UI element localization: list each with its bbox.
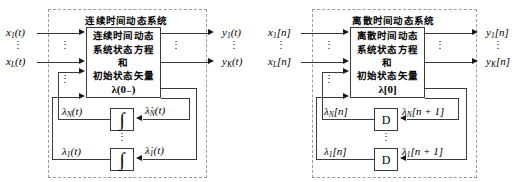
input-label-L: xL[n] [268, 56, 291, 70]
dot: ⋮ [321, 43, 337, 46]
state-wire-1-into-block [52, 97, 81, 98]
input-label-L: xL(t) [6, 56, 25, 70]
output-arrowhead-1 [472, 29, 478, 35]
dot: ⋮ [168, 43, 184, 46]
output-ellipsis-outer: ⋮ [226, 43, 242, 46]
integral-icon: ∫ [119, 150, 124, 169]
state-label-1-arg: (t) [71, 145, 81, 157]
output-wire-K [425, 62, 473, 63]
input-label-1-arg: (t) [15, 26, 25, 38]
state-derivative-label-N-arg: (t) [155, 104, 165, 116]
output-arrowhead-1 [208, 29, 214, 35]
dot: ⋮ [57, 43, 73, 46]
operator-ellipsis: ⋮ [114, 135, 130, 138]
input-arrowhead-1 [79, 29, 85, 35]
dot: ⋮ [10, 43, 26, 46]
discrete-panel-title: 离散时间动态系统 [312, 13, 475, 27]
input-arrowhead-1 [343, 29, 349, 35]
state-dot-wire-N-up [189, 98, 190, 120]
state-feedback-ellipsis: ⋮ [321, 77, 337, 80]
state-label-1: λ1(t) [62, 146, 81, 160]
output-arrowhead-K [472, 58, 478, 64]
state-wire-1-out [52, 159, 110, 160]
state-label-N: λN(t) [62, 106, 82, 120]
state-wire-N-into-block [58, 72, 81, 73]
initial-state-vector-label: λ(0₋) [111, 83, 135, 96]
dot: ⋮ [114, 135, 130, 138]
state-wire-1-up [316, 97, 317, 160]
dot: ⋮ [273, 43, 289, 46]
output-label-K: yK[n] [486, 56, 510, 70]
integrator-box-N: ∫ [110, 108, 134, 131]
delay-icon: D [382, 154, 391, 166]
state-next-label-N-arg: [n + 1] [412, 105, 444, 117]
input-ellipsis-inner: ⋮ [321, 43, 337, 46]
state-next-label-N: λN[n + 1] [402, 106, 444, 120]
dot: ⋮ [57, 77, 73, 80]
output-label-1-arg: [n] [495, 26, 509, 38]
state-wire-N-up [322, 72, 323, 120]
output-ellipsis-inner: ⋮ [168, 43, 184, 46]
output-label-K: yK(t) [222, 56, 242, 70]
system-block-line-4: 初始状态矢量 [357, 69, 418, 82]
output-label-1-arg: (t) [231, 26, 241, 38]
state-label-N-arg: (t) [72, 105, 82, 117]
operator-ellipsis: ⋮ [378, 135, 394, 138]
output-ellipsis-outer: ⋮ [490, 43, 506, 46]
dot: ⋮ [378, 135, 394, 138]
input-arrowhead-L [343, 58, 349, 64]
continuous-panel-title: 连续时间动态系统 [48, 13, 205, 27]
system-block-line-3: 和 [382, 56, 392, 69]
state-feedback-ellipsis: ⋮ [57, 77, 73, 80]
delay-box-N: D [374, 108, 398, 131]
state-next-label-1: λ1[n + 1] [402, 146, 443, 160]
output-wire-K [161, 62, 209, 63]
input-ellipsis-outer: ⋮ [10, 43, 26, 46]
state-derivative-label-1-arg: (t) [154, 144, 164, 156]
integral-icon: ∫ [119, 110, 124, 129]
dot: ⋮ [432, 43, 448, 46]
continuous-system-block: 连续时间动态 系统状态方程 和 初始状态矢量 λ(0₋) [86, 27, 161, 98]
state-derivative-label-N: λ̇N(t) [145, 105, 165, 119]
state-next-wire-N-from-block [425, 98, 459, 99]
integrator-box-1: ∫ [110, 148, 134, 171]
state-wire-N-up [58, 72, 59, 120]
system-block-line-1: 连续时间动态 [93, 29, 154, 42]
output-wire-1 [161, 33, 209, 34]
state-dot-wire-1-from-block [161, 88, 197, 89]
state-next-label-1-arg: [n + 1] [411, 145, 443, 157]
state-next-wire-N-up [458, 98, 459, 120]
state-label-1-arg: [n] [333, 145, 347, 157]
output-label-K-arg: [n] [496, 55, 510, 67]
continuous-time-diagram-panel: 连续时间动态系统 连续时间动态 系统状态方程 和 初始状态矢量 λ(0₋) x1… [0, 0, 263, 182]
input-arrowhead-L [79, 58, 85, 64]
delay-icon: D [382, 114, 391, 126]
system-block-line-4: 初始状态矢量 [93, 69, 154, 82]
state-derivative-label-1: λ̇1(t) [145, 145, 164, 159]
dot: ⋮ [321, 77, 337, 80]
output-label-K-arg: (t) [232, 55, 242, 67]
state-next-wire-1-from-block [425, 88, 467, 89]
state-wire-N-into-block [322, 72, 345, 73]
state-dot-arrowhead-N [136, 115, 142, 121]
input-label-L-arg: [n] [277, 55, 291, 67]
input-ellipsis-outer: ⋮ [273, 43, 289, 46]
delay-box-1: D [374, 148, 398, 171]
dot: ⋮ [490, 43, 506, 46]
state-wire-1-up [52, 97, 53, 160]
input-wire-L [37, 62, 80, 63]
input-label-1-arg: [n] [277, 26, 291, 38]
state-dot-wire-N-from-block [161, 98, 190, 99]
state-label-1: λ1[n] [324, 146, 347, 160]
input-ellipsis-inner: ⋮ [57, 43, 73, 46]
discrete-system-block: 离散时间动态 系统状态方程 和 初始状态矢量 λ[0] [350, 27, 425, 98]
initial-state-vector-label: λ[0] [378, 83, 396, 96]
state-dot-wire-N [143, 119, 190, 120]
state-dot-wire-1-up [196, 88, 197, 160]
state-label-N: λN[n] [324, 106, 348, 120]
dot: ⋮ [226, 43, 242, 46]
output-arrowhead-K [208, 58, 214, 64]
system-block-line-2: 系统状态方程 [93, 43, 154, 56]
system-block-line-1: 离散时间动态 [357, 29, 418, 42]
state-next-wire-1-up [466, 88, 467, 160]
